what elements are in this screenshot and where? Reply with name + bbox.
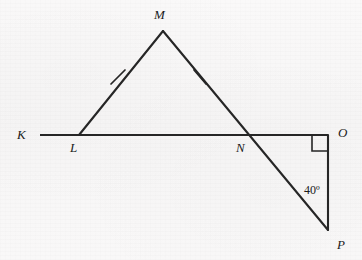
segment-MP [163, 31, 328, 230]
right-angle-marker-O [312, 135, 328, 151]
vertex-label-P: P [337, 238, 345, 251]
vertex-label-O: O [338, 126, 348, 139]
vertex-label-M: M [154, 8, 165, 21]
congruence-tick-MN [194, 70, 206, 84]
geometry-figure: K L M N O P 40º [0, 0, 362, 260]
vertex-label-L: L [70, 141, 77, 154]
vertex-label-K: K [17, 128, 26, 141]
angle-label-P: 40º [304, 184, 320, 196]
segment-LM [79, 31, 163, 135]
vertex-label-N: N [236, 141, 245, 154]
geometry-canvas [0, 0, 362, 260]
